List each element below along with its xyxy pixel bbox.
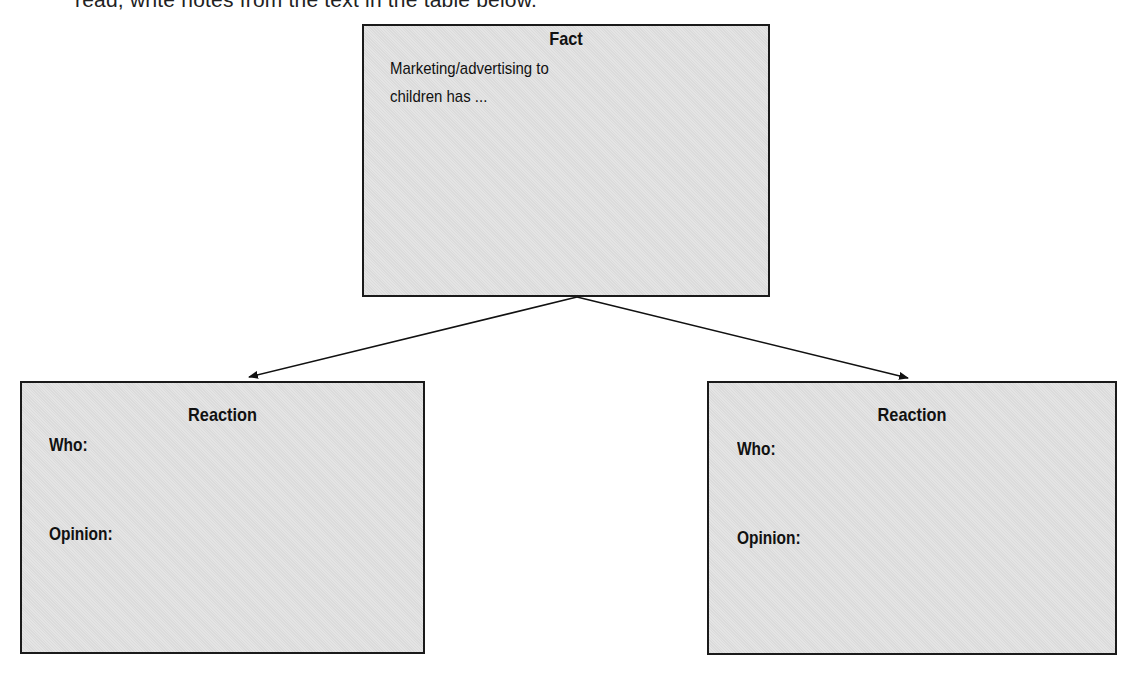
fact-title: Fact [392,28,739,50]
fact-text-line-1: Marketing/advertising to [390,55,549,83]
fact-text: Marketing/advertising to children has ..… [390,55,549,111]
who-label: Who: [737,439,776,460]
who-label: Who: [49,435,88,456]
reaction-title: Reaction [50,404,395,426]
reaction-box-left: Reaction Who: Opinion: [20,381,425,654]
arrow-to-right-reaction [577,297,908,378]
opinion-label: Opinion: [737,528,801,549]
reaction-box-right: Reaction Who: Opinion: [707,381,1117,655]
fact-text-line-2: children has ... [390,83,549,111]
arrow-to-left-reaction [249,297,577,377]
instruction-text: read, write notes from the text in the t… [75,0,537,12]
reaction-title: Reaction [737,404,1086,426]
fact-box: Fact Marketing/advertising to children h… [362,24,770,297]
opinion-label: Opinion: [49,524,113,545]
